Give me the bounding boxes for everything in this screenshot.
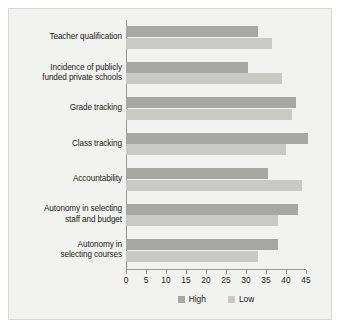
axis-tick <box>246 270 247 274</box>
bar-high <box>126 239 278 250</box>
axis-tick <box>126 270 127 274</box>
category-label: Incidence of publiclyfunded private scho… <box>12 63 122 84</box>
bar-high <box>126 133 308 144</box>
category-label: Teacher qualification <box>12 32 122 43</box>
axis-tick <box>186 270 187 274</box>
bar-low <box>126 215 278 226</box>
category-label-line: selecting courses <box>12 250 122 261</box>
axis-tick <box>266 270 267 274</box>
legend-swatch-icon <box>178 296 185 303</box>
axis-tick-label: 20 <box>201 275 210 285</box>
legend-item-high[interactable]: High <box>178 294 206 304</box>
legend-label: High <box>189 294 206 304</box>
axis-tick <box>206 270 207 274</box>
bar-high <box>126 204 298 215</box>
axis-tick <box>286 270 287 274</box>
category-label-line: Grade tracking <box>12 103 122 114</box>
category-label-line: Teacher qualification <box>12 32 122 43</box>
bars-container <box>126 20 306 268</box>
axis-tick-label: 15 <box>181 275 190 285</box>
bar-low <box>126 144 286 155</box>
axis-tick <box>166 270 167 274</box>
bar-low <box>126 109 292 120</box>
axis-tick-label: 35 <box>261 275 270 285</box>
bar-low <box>126 180 302 191</box>
bar-group <box>126 26 306 49</box>
category-label-line: Accountability <box>12 174 122 185</box>
bar-group <box>126 168 306 191</box>
bar-group <box>126 133 306 156</box>
axis-tick-label: 45 <box>301 275 310 285</box>
category-label-line: funded private schools <box>12 73 122 84</box>
bar-low <box>126 73 282 84</box>
value-axis-ticks: 051015202530354045 <box>126 270 306 290</box>
bar-high <box>126 26 258 37</box>
axis-tick-label: 5 <box>144 275 149 285</box>
legend-item-low[interactable]: Low <box>228 294 254 304</box>
bar-group <box>126 204 306 227</box>
bar-low <box>126 251 258 262</box>
category-label-line: Autonomy in selecting <box>12 204 122 215</box>
category-label-line: Autonomy in <box>12 240 122 251</box>
axis-tick-label: 10 <box>161 275 170 285</box>
category-label-line: Class tracking <box>12 139 122 150</box>
category-label: Accountability <box>12 174 122 185</box>
bar-group <box>126 62 306 85</box>
axis-tick <box>226 270 227 274</box>
category-axis-labels: Teacher qualificationIncidence of public… <box>12 20 122 268</box>
category-label-line: staff and budget <box>12 215 122 226</box>
axis-tick-label: 30 <box>241 275 250 285</box>
category-label-line: Incidence of publicly <box>12 63 122 74</box>
chart-figure: Teacher qualificationIncidence of public… <box>0 0 340 328</box>
legend-label: Low <box>239 294 254 304</box>
chart-area: Teacher qualificationIncidence of public… <box>0 0 340 328</box>
bar-group <box>126 239 306 262</box>
axis-tick-label: 25 <box>221 275 230 285</box>
axis-tick <box>146 270 147 274</box>
category-label: Autonomy in selectingstaff and budget <box>12 204 122 225</box>
category-label: Grade tracking <box>12 103 122 114</box>
axis-tick-label: 0 <box>124 275 129 285</box>
axis-tick <box>306 270 307 274</box>
category-label: Class tracking <box>12 139 122 150</box>
legend-swatch-icon <box>228 296 235 303</box>
chart-legend: HighLow <box>126 292 306 306</box>
bar-high <box>126 62 248 73</box>
bar-low <box>126 38 272 49</box>
bar-group <box>126 97 306 120</box>
bar-high <box>126 168 268 179</box>
category-label: Autonomy inselecting courses <box>12 240 122 261</box>
bar-high <box>126 97 296 108</box>
axis-tick-label: 40 <box>281 275 290 285</box>
